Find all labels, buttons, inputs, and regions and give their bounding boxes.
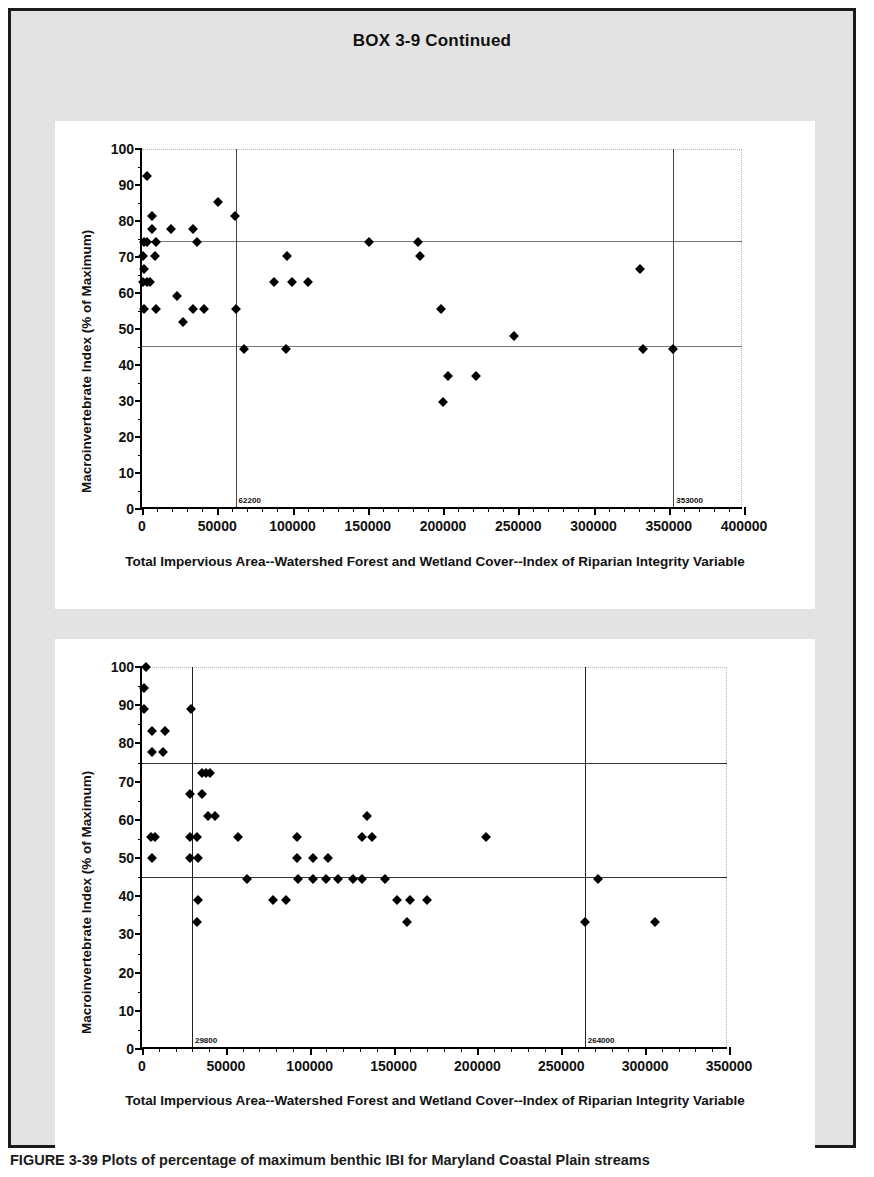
y-axis-tick-label: 30 <box>118 393 134 409</box>
data-point <box>150 251 160 261</box>
data-point <box>287 277 297 287</box>
x-axis-tick <box>293 507 295 515</box>
x-axis-minor-tick <box>192 1047 193 1052</box>
data-point <box>357 874 367 884</box>
y-axis-tick <box>135 364 142 366</box>
data-point <box>322 874 332 884</box>
figure-panel-bottom: Macroinvertebrate Index (% of Maximum) 0… <box>55 639 815 1154</box>
x-axis-minor-tick <box>639 507 640 512</box>
y-axis-tick <box>135 328 142 330</box>
y-axis-tick-label: 50 <box>118 850 134 866</box>
x-axis-tick-label: 150000 <box>344 518 391 534</box>
y-axis-minor-tick <box>138 167 142 168</box>
x-axis-minor-tick <box>503 507 504 512</box>
y-axis-minor-tick <box>138 419 142 420</box>
data-point <box>142 171 152 181</box>
x-axis-tick-label: 250000 <box>495 518 542 534</box>
x-axis-minor-tick <box>729 507 730 512</box>
x-axis-tick <box>645 1047 647 1055</box>
x-axis-tick <box>368 507 370 515</box>
data-point <box>323 853 333 863</box>
x-axis-minor-tick <box>699 507 700 512</box>
y-axis-tick-label: 90 <box>118 177 134 193</box>
y-axis-tick <box>135 472 142 474</box>
data-point <box>282 251 292 261</box>
data-point <box>281 895 291 905</box>
x-axis-minor-tick <box>308 507 309 512</box>
y-axis-tick-label: 80 <box>118 213 134 229</box>
x-axis-minor-tick <box>398 507 399 512</box>
data-point <box>139 264 149 274</box>
x-axis-minor-tick <box>293 1047 294 1052</box>
x-axis-tick <box>744 507 746 515</box>
x-axis-tick-label: 150000 <box>370 1058 417 1074</box>
y-axis-tick-label: 100 <box>111 659 134 675</box>
data-point <box>139 683 149 693</box>
x-axis-minor-tick <box>259 1047 260 1052</box>
horizontal-reference-line <box>142 877 727 878</box>
x-axis-tick <box>217 507 219 515</box>
data-point <box>199 304 209 314</box>
x-axis-minor-tick <box>444 1047 445 1052</box>
x-axis-tick <box>142 507 144 515</box>
x-axis-tick-label: 200000 <box>420 518 467 534</box>
data-point <box>188 224 198 234</box>
y-axis-minor-tick <box>138 383 142 384</box>
y-axis-tick-label: 0 <box>126 501 134 517</box>
box-frame: BOX 3-9 Continued Macroinvertebrate Inde… <box>8 8 856 1148</box>
y-axis-minor-tick <box>138 954 142 955</box>
plot-top-edge <box>142 149 742 150</box>
data-point <box>138 251 148 261</box>
data-point <box>192 237 202 247</box>
data-point <box>151 304 161 314</box>
data-point <box>158 747 168 757</box>
x-axis-minor-tick <box>609 507 610 512</box>
x-axis-minor-tick <box>232 507 233 512</box>
data-point <box>593 874 603 884</box>
y-axis-tick-label: 90 <box>118 697 134 713</box>
x-axis-minor-tick <box>360 1047 361 1052</box>
data-point <box>437 304 447 314</box>
x-axis-minor-tick <box>277 507 278 512</box>
x-axis-minor-tick <box>458 507 459 512</box>
vertical-reference-line-label: 62200 <box>239 496 261 505</box>
plot-area-bottom: 0102030405060708090100050000100000150000… <box>140 667 727 1049</box>
x-axis-minor-tick <box>172 507 173 512</box>
x-axis-tick <box>669 507 671 515</box>
data-point <box>364 237 374 247</box>
data-point <box>172 291 182 301</box>
y-axis-tick <box>135 400 142 402</box>
y-axis-tick <box>135 1048 142 1050</box>
x-axis-minor-tick <box>695 1047 696 1052</box>
vertical-reference-line <box>673 149 674 507</box>
data-point <box>242 874 252 884</box>
data-point <box>192 917 202 927</box>
x-axis-minor-tick <box>202 507 203 512</box>
y-axis-tick <box>135 436 142 438</box>
vertical-reference-line <box>236 149 237 507</box>
y-axis-tick-label: 20 <box>118 429 134 445</box>
data-point <box>635 264 645 274</box>
data-point <box>415 251 425 261</box>
data-point <box>292 832 302 842</box>
data-point <box>333 874 343 884</box>
scatter-chart-top: Macroinvertebrate Index (% of Maximum) 0… <box>55 121 815 609</box>
y-axis-tick <box>135 819 142 821</box>
x-axis-minor-tick <box>157 507 158 512</box>
page-root: BOX 3-9 Continued Macroinvertebrate Inde… <box>0 0 874 1177</box>
x-axis-minor-tick <box>209 1047 210 1052</box>
y-axis-minor-tick <box>138 455 142 456</box>
x-axis-minor-tick <box>662 1047 663 1052</box>
data-point <box>422 895 432 905</box>
y-axis-tick <box>135 895 142 897</box>
y-axis-tick <box>135 184 142 186</box>
data-point <box>178 317 188 327</box>
data-point <box>230 211 240 221</box>
data-point <box>481 832 491 842</box>
data-point <box>213 197 223 207</box>
data-point <box>308 853 318 863</box>
data-point <box>392 895 402 905</box>
x-axis-minor-tick <box>563 507 564 512</box>
x-axis-tick-label: 200000 <box>454 1058 501 1074</box>
x-axis-tick <box>729 1047 731 1055</box>
